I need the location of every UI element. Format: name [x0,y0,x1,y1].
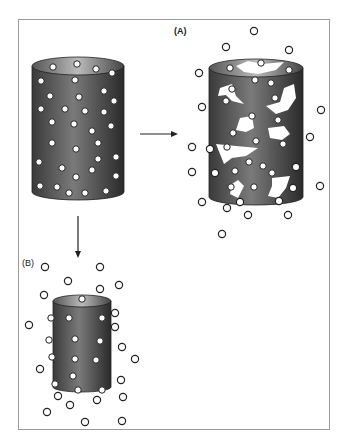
arrow-to-b [75,216,81,258]
shrunk-cylinder [25,263,138,425]
original-cylinder [32,57,124,200]
arrow-to-a [140,131,178,137]
eroded-cylinder [188,27,324,237]
diagram-canvas [0,0,349,448]
